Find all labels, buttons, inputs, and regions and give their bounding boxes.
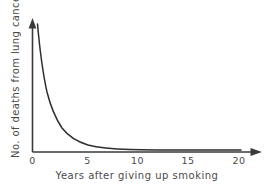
lung-cancer-decay-chart: 0 5 10 15 20 Years after giving up smoki… [0,0,274,194]
x-tick-label-5: 5 [84,155,90,166]
x-axis-arrowhead [251,148,263,156]
y-axis-arrowhead [29,18,37,29]
lung-cancer-decay-curve [38,24,242,150]
y-axis-title: No. of deaths from lung cancer [10,18,24,158]
x-tick-label-0: 0 [29,155,35,166]
x-axis-title: Years after giving up smoking [0,170,274,181]
x-tick-label-10: 10 [131,155,144,166]
x-tick-label-15: 15 [182,155,195,166]
x-tick-label-20: 20 [233,155,246,166]
